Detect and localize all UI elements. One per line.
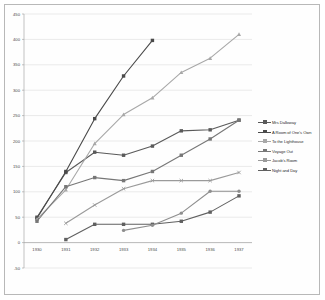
data-point-marker [151, 39, 154, 42]
y-tick-label: 400 [13, 37, 21, 42]
x-tick-label: 1933 [119, 247, 129, 252]
x-tick-label: 1932 [90, 247, 100, 252]
legend-item-label: Voyage Out [272, 149, 293, 154]
data-point-marker [208, 210, 211, 213]
legend-color-swatch [258, 158, 271, 163]
legend-color-swatch [258, 130, 271, 135]
data-point-marker [237, 32, 241, 36]
y-tick-label: 450 [13, 12, 21, 17]
x-tick-label: 1934 [148, 247, 158, 252]
series-line [66, 196, 239, 240]
legend-item-label: Night and Day [272, 168, 297, 173]
data-point-marker [180, 154, 183, 157]
legend-item-label: Jacob's Room [272, 158, 297, 163]
legend-item[interactable]: A Room of One's Own [258, 128, 322, 137]
legend-item-label: A Room of One's Own [272, 130, 311, 135]
data-point-marker [208, 137, 211, 140]
legend-color-swatch [258, 139, 271, 144]
data-point-marker [93, 203, 96, 206]
data-point-marker [64, 170, 67, 173]
x-tick-label: 1937 [234, 247, 244, 252]
data-point-marker [35, 220, 38, 223]
y-tick-label: 350 [13, 62, 21, 67]
legend-item[interactable]: Voyage Out [258, 147, 322, 156]
data-point-marker [180, 129, 183, 132]
y-tick-label: -50 [14, 266, 21, 271]
legend-color-swatch [258, 120, 271, 125]
data-point-marker [151, 170, 154, 173]
data-point-marker [208, 190, 211, 193]
data-point-marker [237, 190, 240, 193]
data-point-marker [122, 223, 125, 226]
y-tick-label: 100 [13, 189, 21, 194]
data-series-group [35, 32, 241, 241]
data-point-marker [64, 185, 67, 188]
data-point-marker [237, 194, 240, 197]
data-point-marker [237, 118, 240, 121]
series-a-room-of-one-s-own [35, 39, 154, 220]
y-tick-label: 250 [13, 113, 21, 118]
data-point-marker [122, 154, 125, 157]
data-point-marker [151, 224, 154, 227]
data-point-marker [122, 74, 125, 77]
x-tick-label: 1931 [61, 247, 71, 252]
y-tick-label: 0 [18, 240, 21, 245]
chart-container: 450400350300250200150100500-50 193019311… [0, 0, 325, 300]
data-point-marker [93, 117, 96, 120]
x-axis-tick-labels: 19301931193219331934193519361937 [32, 247, 244, 252]
data-point-marker [93, 150, 96, 153]
data-point-marker [180, 220, 183, 223]
legend-item[interactable]: Night and Day [258, 166, 322, 175]
legend-item-label: Mrs Dalloway [272, 120, 296, 125]
data-point-marker [208, 128, 211, 131]
legend-item[interactable]: Jacob's Room [258, 156, 322, 165]
legend-item[interactable]: Mrs Dalloway [258, 118, 322, 127]
data-point-marker [180, 211, 183, 214]
series-night-and-day [64, 194, 241, 241]
y-tick-label: 150 [13, 164, 21, 169]
chart-legend: Mrs DallowayA Room of One's OwnTo the Li… [258, 118, 322, 175]
legend-color-swatch [258, 168, 271, 173]
data-point-marker [93, 176, 96, 179]
legend-item[interactable]: To the Lighthouse [258, 137, 322, 146]
x-tick-label: 1935 [177, 247, 187, 252]
data-point-marker [122, 179, 125, 182]
y-tick-label: 200 [13, 139, 21, 144]
legend-color-swatch [258, 149, 271, 154]
x-tick-label: 1930 [32, 247, 42, 252]
y-tick-label: 50 [15, 215, 20, 220]
legend-item-label: To the Lighthouse [272, 139, 303, 144]
data-point-marker [64, 222, 67, 225]
data-point-marker [64, 238, 67, 241]
y-axis-tick-labels: 450400350300250200150100500-50 [13, 12, 21, 271]
x-tick-label: 1936 [205, 247, 215, 252]
data-point-marker [122, 229, 125, 232]
data-point-marker [151, 144, 154, 147]
series-night-and-day-upper [122, 190, 241, 233]
data-point-marker [93, 223, 96, 226]
series-mrs-dalloway [35, 118, 240, 218]
y-tick-label: 300 [13, 88, 21, 93]
